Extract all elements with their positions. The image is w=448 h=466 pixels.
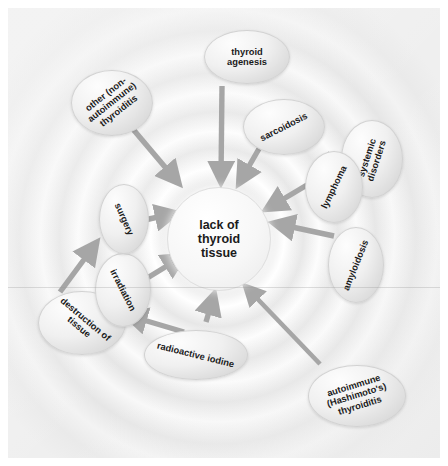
diagram-canvas: lack of thyroid tissue thyroid agenesis … [8,8,440,458]
node-lymphoma-label: lymphoma [319,164,349,210]
node-sarcoidosis[interactable]: sarcoidosis [243,99,325,155]
node-surgery-label: surgery [112,201,135,236]
node-center[interactable]: lack of thyroid tissue [167,187,271,291]
node-amyloidosis-label: amyloidosis [341,238,371,292]
node-center-label: lack of thyroid tissue [198,218,240,260]
node-surgery[interactable]: surgery [99,184,149,254]
edge-lymphoma-to-center [270,185,307,207]
node-autoimmune-thyroiditis[interactable]: autoimmune (Hashimoto's) thyroiditis [308,365,406,427]
edge-radioactive-iodine-to-center [206,298,213,322]
node-sarcoidosis-label: sarcoidosis [259,111,310,144]
edge-destruction-to-surgery [60,246,94,292]
node-irradiation-label: irradiation [108,267,138,312]
edge-autoimmune-to-center [248,289,320,364]
horizontal-scan-line [8,287,440,288]
node-autoimmune-thyroiditis-label: autoimmune (Hashimoto's) thyroiditis [323,372,391,420]
node-thyroid-agenesis[interactable]: thyroid agenesis [204,30,290,84]
edge-thyroid-agenesis-to-center [221,86,222,178]
node-other-thyroiditis-label: other (non- autoimmune) thyroiditis [79,73,144,134]
node-radioactive-iodine[interactable]: radioactive iodine [144,330,248,380]
edge-sarcoidosis-to-center [241,147,260,180]
node-irradiation[interactable]: irradiation [95,253,151,327]
node-radioactive-iodine-label: radioactive iodine [156,340,235,369]
node-other-thyroiditis[interactable]: other (non- autoimmune) thyroiditis [71,70,153,136]
node-amyloidosis[interactable]: amyloidosis [328,227,384,303]
edge-amyloidosis-to-center [278,224,334,236]
node-thyroid-agenesis-label: thyroid agenesis [227,47,267,68]
edge-other-thyroiditis-to-center [132,128,176,180]
node-lymphoma[interactable]: lymphoma [305,151,363,223]
